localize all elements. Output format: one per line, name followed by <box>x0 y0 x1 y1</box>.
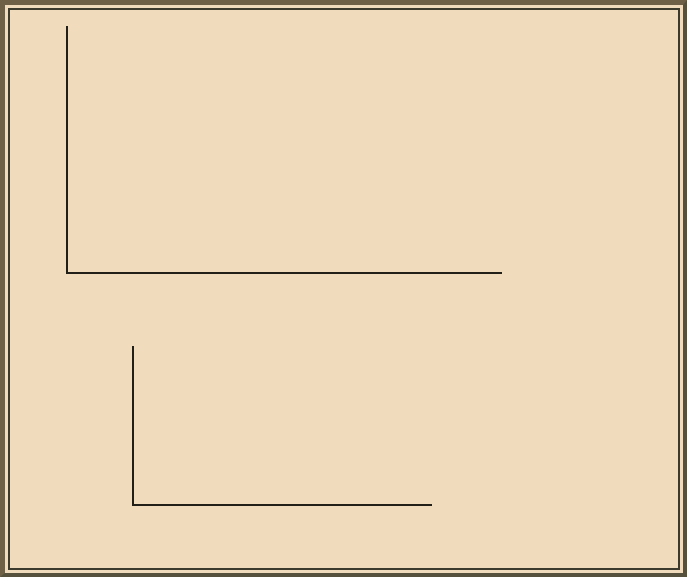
figure-page <box>0 0 687 577</box>
top-bar-chart <box>14 12 669 312</box>
bottom-bar-chart <box>14 322 669 562</box>
bottom-chart-y-axis-line <box>132 346 134 506</box>
top-chart-plot-area <box>66 26 502 274</box>
bottom-chart-x-axis-line <box>132 504 432 506</box>
top-chart-y-axis-label <box>18 30 44 280</box>
bottom-chart-plot-area <box>132 346 432 506</box>
top-chart-x-axis-line <box>66 272 502 274</box>
bottom-chart-y-axis-label <box>20 326 76 532</box>
top-chart-y-axis-line <box>66 26 68 274</box>
